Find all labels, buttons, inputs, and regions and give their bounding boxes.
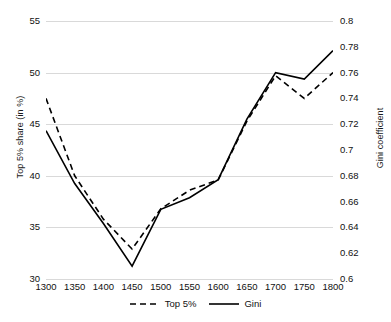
y-axis-right-tick: 0.78 <box>340 42 374 52</box>
y-axis-right-tick-label: 0.74 <box>340 93 374 103</box>
legend-swatch-dashed-icon <box>130 300 160 308</box>
legend-label-top-5-percent: Top 5% <box>165 298 197 309</box>
y-axis-right-tick: 0.62 <box>340 248 374 258</box>
y-axis-left-tick: 35 <box>14 222 40 232</box>
y-axis-right-tick: 0.66 <box>340 197 374 207</box>
y-axis-right-tick-label: 0.66 <box>340 197 374 207</box>
y-axis-right-tick-label: 0.64 <box>340 222 374 232</box>
y-axis-right-tick-label: 0.78 <box>340 42 374 52</box>
x-axis-tick-label: 1800 <box>313 282 353 292</box>
y-axis-right-tick: 0.74 <box>340 93 374 103</box>
line-top-5-percent <box>46 73 333 249</box>
y-axis-left-tick: 55 <box>14 16 40 26</box>
legend-item-gini: Gini <box>209 298 261 309</box>
plot-area <box>46 21 333 279</box>
y-axis-right-tick-label: 0.68 <box>340 171 374 181</box>
x-axis-tick: 1800 <box>313 282 353 294</box>
legend-label-gini: Gini <box>244 298 261 309</box>
y-axis-right-tick: 0.76 <box>340 68 374 78</box>
y-axis-left-tick-label: 35 <box>16 222 40 232</box>
y-axis-right-tick-label: 0.72 <box>340 119 374 129</box>
y-axis-right-tick-label: 0.76 <box>340 68 374 78</box>
y-axis-left-tick-label: 55 <box>16 16 40 26</box>
y-axis-right-tick: 0.7 <box>340 145 374 155</box>
y-axis-right-tick: 0.8 <box>340 16 374 26</box>
line-gini <box>46 51 333 266</box>
gridline <box>46 279 333 280</box>
y-axis-right-tick-label: 0.7 <box>340 145 374 155</box>
y-axis-right-tick: 0.68 <box>340 171 374 181</box>
y-axis-left-tick-label: 40 <box>16 171 40 181</box>
chart-container: Top 5% share (in %) Gini coefficient 303… <box>0 0 391 322</box>
y-axis-right-tick-label: 0.8 <box>340 16 374 26</box>
legend-item-top-5-percent: Top 5% <box>130 298 197 309</box>
series-canvas <box>46 21 333 279</box>
legend-swatch-solid-icon <box>209 300 239 308</box>
y-axis-left-title: Top 5% share (in %) <box>15 72 25 202</box>
y-axis-left-tick-label: 45 <box>16 119 40 129</box>
y-axis-right-title: Gini coefficient <box>375 73 385 203</box>
y-axis-right-tick-label: 0.62 <box>340 248 374 258</box>
y-axis-left-tick: 45 <box>14 119 40 129</box>
y-axis-left-tick: 40 <box>14 171 40 181</box>
chart-legend: Top 5% Gini <box>0 298 391 309</box>
y-axis-right-tick: 0.64 <box>340 222 374 232</box>
y-axis-left-tick-label: 50 <box>16 68 40 78</box>
y-axis-left-tick: 50 <box>14 68 40 78</box>
y-axis-right-tick: 0.72 <box>340 119 374 129</box>
